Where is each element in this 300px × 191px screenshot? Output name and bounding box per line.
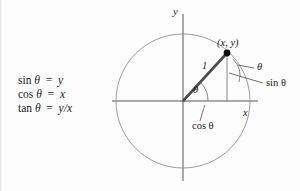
equation-list: sin θ = y cos θ = x tan θ = y/x (18, 74, 73, 115)
svg-text:sin θ = y: sin θ = y (18, 74, 64, 87)
cosine-leader-line (200, 105, 205, 121)
sin-right-side: y (57, 74, 64, 87)
svg-text:cos θ = x: cos θ = x (18, 88, 66, 100)
cos-right-side: x (59, 88, 66, 100)
sine-label: sin θ (266, 77, 286, 88)
equation-tan: tan θ = y/x (18, 102, 73, 115)
y-axis-label: y (172, 6, 178, 17)
sin-function-name: sin (18, 74, 32, 86)
x-axis-label: x (242, 107, 248, 118)
svg-text:tan θ = y/x: tan θ = y/x (18, 102, 73, 115)
cos-function-name: cos (18, 88, 34, 100)
sine-leader-line (229, 73, 263, 83)
tan-function-name: tan (18, 102, 32, 114)
theta-arc-label: θ (257, 61, 262, 72)
unit-circle-figure: sin θ = y cos θ = x tan θ = y/x x y (x, … (0, 0, 300, 191)
theta-arc-origin (201, 83, 208, 101)
equation-sin: sin θ = y (18, 74, 64, 87)
radius-length-label: 1 (202, 60, 207, 71)
cosine-label: cos θ (192, 120, 214, 131)
tan-right-side: y/x (58, 102, 73, 115)
point-marker (224, 50, 231, 57)
equation-cos: cos θ = x (18, 88, 66, 100)
theta-origin-label: θ (193, 84, 198, 95)
theta-arc-at-point (233, 59, 240, 82)
point-coordinates-label: (x, y) (217, 37, 239, 49)
